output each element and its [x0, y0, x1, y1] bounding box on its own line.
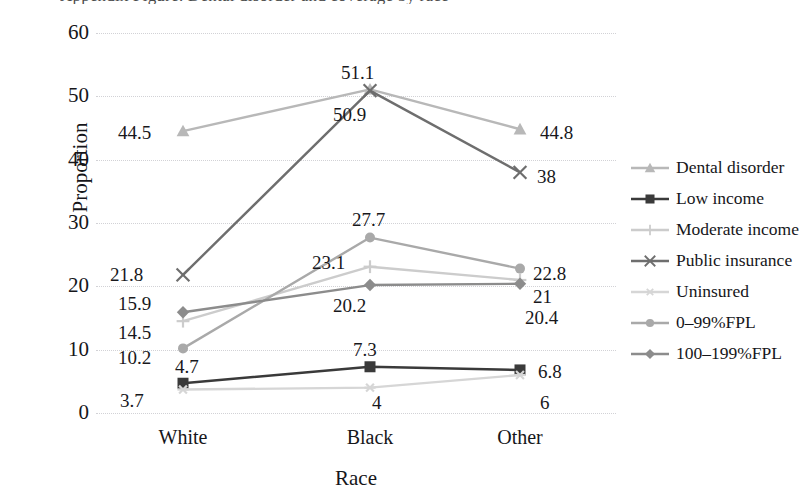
point-value-label: 14.5: [118, 323, 151, 342]
series-line: [183, 367, 520, 383]
point-value-label: 10.2: [118, 348, 151, 367]
marker-square: [365, 361, 376, 372]
legend-swatch-icon: [630, 190, 670, 208]
legend-swatch-icon: [630, 221, 670, 239]
legend-label: 0–99%FPL: [676, 312, 756, 333]
marker-circle: [646, 318, 654, 326]
point-value-label: 27.7: [352, 210, 385, 229]
marker-diamond: [177, 306, 189, 318]
legend-item-public-insurance[interactable]: Public insurance: [630, 245, 798, 276]
marker-diamond: [645, 348, 655, 358]
legend-item-low-income[interactable]: Low income: [630, 183, 798, 214]
marker-circle: [365, 233, 375, 243]
series-low-income: [178, 361, 526, 388]
series-0-99-fpl: [178, 233, 525, 354]
legend-item-100-199-fpl[interactable]: 100–199%FPL: [630, 338, 798, 369]
point-value-label: 23.1: [312, 253, 345, 272]
x-tick-label-other: Other: [460, 426, 580, 449]
legend-swatch-icon: [630, 345, 670, 363]
point-value-label: 44.8: [540, 123, 573, 142]
point-value-label: 21.8: [110, 265, 143, 284]
point-value-label: 6.8: [538, 362, 562, 381]
legend-label: Public insurance: [676, 250, 792, 271]
legend-swatch-icon: [630, 314, 670, 332]
legend-swatch-icon: [630, 252, 670, 270]
marker-cross: [514, 166, 527, 179]
marker-square: [645, 194, 654, 203]
point-value-label: 20.4: [525, 308, 558, 327]
marker-plus: [645, 224, 655, 234]
marker-circle: [515, 264, 525, 274]
legend-label: Uninsured: [676, 281, 749, 302]
point-value-label: 6: [540, 393, 550, 412]
marker-plus: [364, 260, 377, 273]
chart-figure: Appendix Figure: Dental disorder and cov…: [0, 0, 799, 502]
point-value-label: 3.7: [120, 391, 144, 410]
point-value-label: 4.7: [175, 357, 199, 376]
legend-label: Low income: [676, 188, 764, 209]
point-value-label: 21: [533, 287, 552, 306]
point-value-label: 20.2: [333, 296, 366, 315]
marker-diamond: [364, 279, 376, 291]
point-value-label: 51.1: [341, 63, 374, 82]
x-axis-title: Race: [96, 466, 616, 491]
marker-cross: [177, 269, 190, 282]
x-tick-label-white: White: [123, 426, 243, 449]
point-value-label: 44.5: [118, 123, 151, 142]
legend-label: 100–199%FPL: [676, 343, 782, 364]
legend-label: Moderate income: [676, 219, 799, 240]
legend-swatch-icon: [630, 283, 670, 301]
legend-item-0-99-fpl[interactable]: 0–99%FPL: [630, 307, 798, 338]
marker-circle: [178, 343, 188, 353]
x-tick-label-black: Black: [310, 426, 430, 449]
series-line: [183, 238, 520, 349]
point-value-label: 15.9: [118, 294, 151, 313]
legend-item-moderate-income[interactable]: Moderate income: [630, 214, 798, 245]
series-moderate-income: [177, 260, 527, 327]
legend-swatch-icon: [630, 159, 670, 177]
point-value-label: 22.8: [533, 264, 566, 283]
point-value-label: 38: [537, 167, 556, 186]
point-value-label: 50.9: [333, 105, 366, 124]
series-uninsured: [177, 371, 525, 393]
series-line: [183, 375, 520, 390]
point-value-label: 7.3: [353, 340, 377, 359]
point-value-label: 4: [372, 393, 382, 412]
legend-item-uninsured[interactable]: Uninsured: [630, 276, 798, 307]
marker-asterisk: [364, 384, 375, 392]
marker-asterisk: [645, 288, 654, 294]
legend-label: Dental disorder: [676, 157, 784, 178]
chart-legend: Dental disorderLow incomeModerate income…: [630, 152, 798, 369]
legend-item-dental-disorder[interactable]: Dental disorder: [630, 152, 798, 183]
